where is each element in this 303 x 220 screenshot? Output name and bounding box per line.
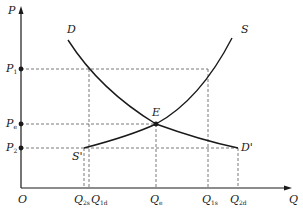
price-label-sub: 2 bbox=[13, 147, 17, 154]
quantity-label-qe: Qe bbox=[150, 194, 163, 206]
price-label-pe: Pe bbox=[6, 118, 17, 130]
quantity-label-main: Q bbox=[230, 193, 239, 206]
price-label-p2: P2 bbox=[6, 142, 17, 154]
equilibrium-point bbox=[154, 122, 159, 127]
equilibrium-label: E bbox=[152, 107, 160, 118]
quantity-label-sub: 2s bbox=[83, 199, 90, 206]
supply-curve-label: S bbox=[241, 24, 249, 35]
price-label-sub: e bbox=[13, 123, 17, 130]
price-p1-point bbox=[19, 67, 24, 72]
demand-curve bbox=[68, 40, 238, 148]
quantity-label-main: Q bbox=[91, 193, 100, 206]
price-p2-point bbox=[19, 146, 24, 151]
quantity-label-q2s: Q2s bbox=[74, 194, 90, 206]
quantity-label-main: Q bbox=[202, 193, 211, 206]
y-axis-label: P bbox=[8, 5, 15, 16]
supply-curve bbox=[84, 38, 232, 148]
quantity-label-sub: 1d bbox=[100, 199, 108, 206]
x-axis-label: Q bbox=[289, 194, 298, 205]
demand-curve-label: D bbox=[67, 24, 76, 35]
quantity-label-sub: 2d bbox=[239, 199, 247, 206]
quantity-label-main: Q bbox=[74, 193, 83, 206]
quantity-label-q1s: Q1s bbox=[202, 194, 218, 206]
x-axis-arrow-icon bbox=[284, 186, 292, 191]
guide-lines bbox=[21, 69, 238, 188]
quantity-label-sub: 1s bbox=[211, 199, 218, 206]
quantity-label-sub: e bbox=[159, 199, 163, 206]
price-label-p1: P1 bbox=[6, 63, 17, 75]
axes bbox=[21, 12, 286, 188]
supply-end-label: S' bbox=[72, 151, 83, 162]
price-label-sub: 1 bbox=[13, 68, 17, 75]
y-axis-arrow-icon bbox=[19, 6, 24, 14]
quantity-label-q1d: Q1d bbox=[91, 194, 108, 206]
price-pe-point bbox=[19, 122, 24, 127]
demand-end-label: D' bbox=[241, 142, 253, 153]
origin-label: O bbox=[18, 194, 27, 205]
quantity-label-q2d: Q2d bbox=[230, 194, 247, 206]
quantity-label-main: Q bbox=[150, 193, 159, 206]
